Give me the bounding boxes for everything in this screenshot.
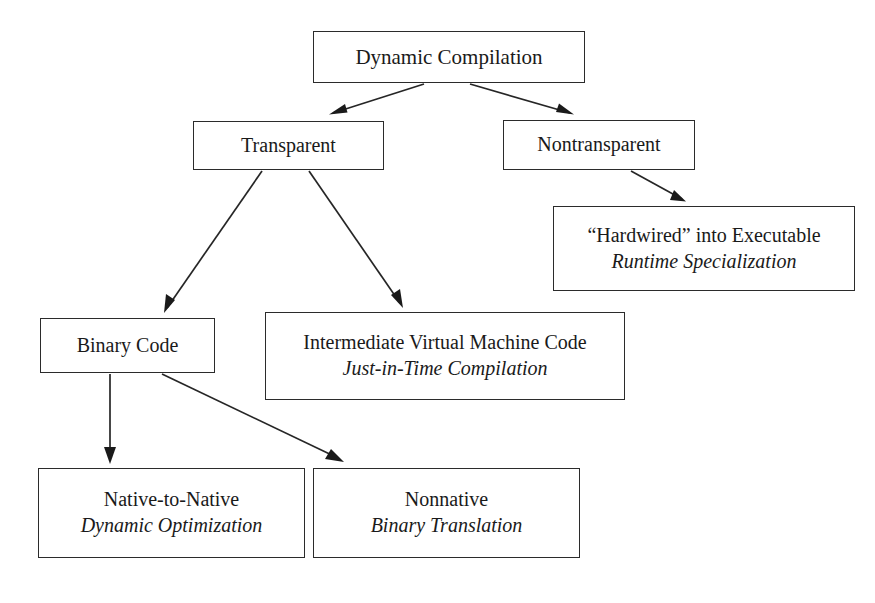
node-label-line1: Intermediate Virtual Machine Code — [303, 330, 586, 356]
node-label-line2: Binary Translation — [371, 513, 523, 539]
node-label-line2: Dynamic Optimization — [81, 513, 263, 539]
edge-root-to-transparent — [329, 84, 424, 115]
diagram-canvas: Dynamic Compilation Transparent Nontrans… — [0, 0, 875, 603]
edge-root-to-nontransparent — [470, 84, 574, 115]
node-label-line1: “Hardwired” into Executable — [587, 223, 820, 249]
node-transparent[interactable]: Transparent — [193, 121, 384, 170]
node-label-line1: Nontransparent — [537, 132, 660, 158]
node-hardwired-into-executable[interactable]: “Hardwired” into Executable Runtime Spec… — [553, 206, 855, 291]
node-label-line1: Native-to-Native — [104, 487, 240, 513]
node-dynamic-compilation[interactable]: Dynamic Compilation — [313, 31, 585, 83]
node-label-line2: Just-in-Time Compilation — [343, 356, 548, 382]
edge-nontransparent-to-hardwired — [631, 171, 686, 202]
edge-transparent-to-ivmc — [309, 171, 403, 308]
node-label-line1: Dynamic Compilation — [355, 44, 542, 71]
node-native-to-native[interactable]: Native-to-Native Dynamic Optimization — [38, 468, 305, 558]
node-intermediate-virtual-machine-code[interactable]: Intermediate Virtual Machine Code Just-i… — [265, 312, 625, 400]
node-label-line1: Nonnative — [405, 487, 488, 513]
node-label-line2: Runtime Specialization — [612, 249, 797, 275]
node-nontransparent[interactable]: Nontransparent — [503, 120, 695, 170]
edge-transparent-to-binary-code — [164, 171, 262, 313]
node-label-line1: Transparent — [241, 133, 336, 159]
node-label-line1: Binary Code — [77, 333, 179, 359]
node-nonnative[interactable]: Nonnative Binary Translation — [313, 468, 580, 558]
node-binary-code[interactable]: Binary Code — [40, 318, 215, 373]
edge-binary-code-to-native — [104, 374, 116, 464]
